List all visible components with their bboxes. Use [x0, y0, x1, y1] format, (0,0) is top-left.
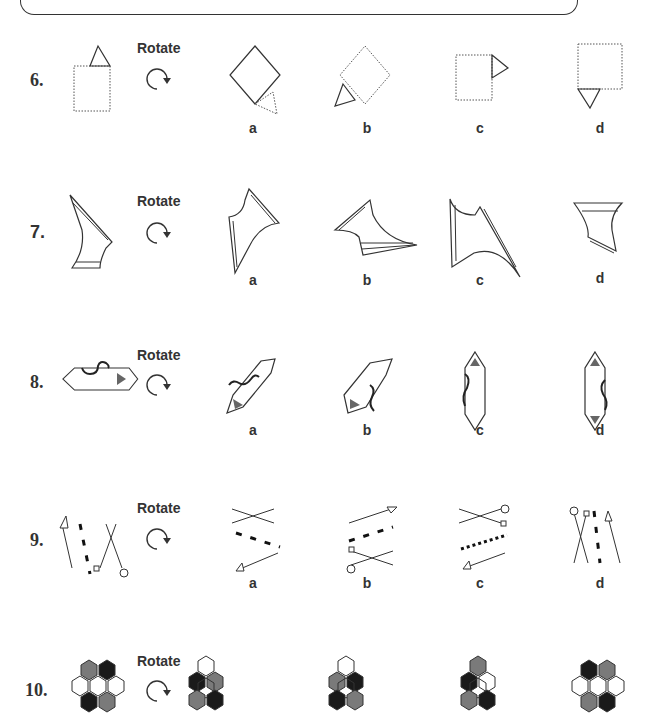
question-number: 8. — [30, 372, 44, 393]
option-a-figure[interactable] — [215, 355, 285, 425]
option-a-label[interactable]: a — [243, 422, 263, 438]
option-b-label[interactable]: b — [357, 120, 377, 136]
option-a-figure[interactable] — [215, 185, 295, 275]
option-b-figure[interactable] — [325, 40, 405, 120]
option-a-label[interactable]: a — [243, 120, 263, 136]
option-c-figure[interactable] — [440, 40, 520, 120]
option-b-label[interactable]: b — [357, 422, 377, 438]
question-figure — [60, 190, 130, 275]
question-number: 10. — [25, 680, 48, 701]
clockwise-arrow-icon — [143, 216, 175, 248]
option-b-figure[interactable] — [343, 505, 403, 575]
clockwise-arrow-icon — [143, 368, 175, 400]
clockwise-arrow-icon — [143, 522, 175, 554]
option-c-figure[interactable] — [440, 195, 520, 275]
rotate-label: Rotate — [137, 653, 181, 669]
option-a-figure[interactable] — [228, 505, 288, 575]
clockwise-arrow-icon — [143, 674, 175, 706]
rotate-label: Rotate — [137, 193, 181, 209]
option-d-label[interactable]: d — [590, 422, 610, 438]
option-d-figure[interactable] — [570, 505, 630, 575]
option-c-label[interactable]: c — [470, 422, 490, 438]
question-figure — [66, 660, 136, 717]
option-b-figure[interactable] — [330, 355, 400, 425]
option-a-label[interactable]: a — [243, 272, 263, 288]
option-d-label[interactable]: d — [590, 120, 610, 136]
option-b-figure[interactable] — [325, 195, 420, 265]
rotate-label: Rotate — [137, 347, 181, 363]
option-b-figure[interactable] — [320, 656, 390, 716]
question-number: 6. — [30, 70, 44, 91]
question-number: 9. — [30, 530, 44, 551]
option-d-label[interactable]: d — [590, 270, 610, 286]
option-c-label[interactable]: c — [470, 272, 490, 288]
option-c-figure[interactable] — [455, 505, 515, 575]
option-a-figure[interactable] — [180, 656, 250, 716]
question-figure — [60, 360, 140, 400]
option-d-figure[interactable] — [566, 660, 636, 717]
clockwise-arrow-icon — [143, 62, 175, 94]
option-a-label[interactable]: a — [243, 575, 263, 591]
question-figure — [60, 40, 130, 120]
option-b-label[interactable]: b — [357, 575, 377, 591]
rotate-label: Rotate — [137, 40, 181, 56]
rotate-label: Rotate — [137, 500, 181, 516]
instruction-box — [20, 0, 578, 15]
option-c-figure[interactable] — [452, 656, 522, 716]
option-b-label[interactable]: b — [357, 272, 377, 288]
question-figure — [60, 510, 140, 580]
option-d-figure[interactable] — [560, 195, 640, 265]
option-c-label[interactable]: c — [470, 120, 490, 136]
option-c-label[interactable]: c — [470, 575, 490, 591]
option-a-figure[interactable] — [215, 40, 295, 120]
option-d-figure[interactable] — [560, 40, 640, 120]
option-d-label[interactable]: d — [590, 575, 610, 591]
question-number: 7. — [30, 222, 45, 243]
